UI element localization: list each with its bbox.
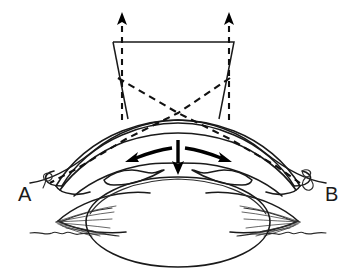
flow-arrow-left — [125, 148, 172, 162]
label-b: B — [325, 183, 338, 205]
droplet-marker-left — [43, 173, 52, 188]
flow-arrow-right — [185, 148, 232, 162]
label-a: A — [18, 183, 32, 205]
anatomical-figure: A B — [0, 0, 362, 278]
trapezoid-instrument[interactable] — [113, 42, 234, 119]
figure-canvas: A B — [0, 0, 362, 278]
flow-arrow-down — [172, 140, 184, 175]
lens-ellipse — [86, 177, 270, 267]
